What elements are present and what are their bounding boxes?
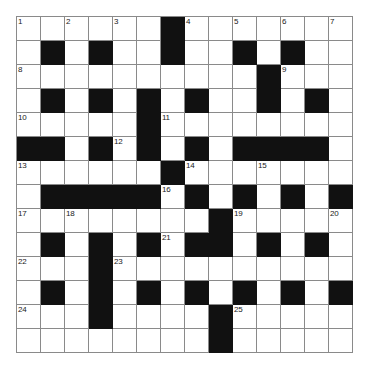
grid-letter-cell[interactable]: [209, 113, 233, 137]
grid-letter-cell[interactable]: [305, 185, 329, 209]
grid-letter-cell[interactable]: [65, 137, 89, 161]
grid-letter-cell[interactable]: [65, 281, 89, 305]
grid-letter-cell[interactable]: [185, 65, 209, 89]
grid-letter-cell[interactable]: [257, 209, 281, 233]
grid-letter-cell[interactable]: [41, 329, 65, 353]
grid-letter-cell[interactable]: [113, 113, 137, 137]
grid-letter-cell[interactable]: [305, 329, 329, 353]
grid-letter-cell[interactable]: [137, 329, 161, 353]
grid-letter-cell[interactable]: [305, 113, 329, 137]
grid-letter-cell[interactable]: [161, 209, 185, 233]
grid-letter-cell[interactable]: [137, 209, 161, 233]
grid-letter-cell[interactable]: [17, 281, 41, 305]
grid-letter-cell[interactable]: [65, 305, 89, 329]
grid-letter-cell[interactable]: 22: [17, 257, 41, 281]
grid-letter-cell[interactable]: 21: [161, 233, 185, 257]
grid-letter-cell[interactable]: [329, 41, 353, 65]
grid-letter-cell[interactable]: [113, 209, 137, 233]
grid-letter-cell[interactable]: [65, 257, 89, 281]
grid-letter-cell[interactable]: [281, 113, 305, 137]
grid-letter-cell[interactable]: [257, 113, 281, 137]
grid-letter-cell[interactable]: [65, 161, 89, 185]
grid-letter-cell[interactable]: [65, 329, 89, 353]
grid-letter-cell[interactable]: [305, 17, 329, 41]
grid-letter-cell[interactable]: [113, 305, 137, 329]
grid-letter-cell[interactable]: [233, 257, 257, 281]
grid-letter-cell[interactable]: 8: [17, 65, 41, 89]
grid-letter-cell[interactable]: 15: [257, 161, 281, 185]
crossword-grid[interactable]: 1234567891011121314151617181920212223242…: [16, 16, 353, 353]
grid-letter-cell[interactable]: 1: [17, 17, 41, 41]
grid-letter-cell[interactable]: 11: [161, 113, 185, 137]
grid-letter-cell[interactable]: [137, 257, 161, 281]
grid-letter-cell[interactable]: [113, 89, 137, 113]
grid-letter-cell[interactable]: [305, 305, 329, 329]
grid-letter-cell[interactable]: [161, 137, 185, 161]
grid-letter-cell[interactable]: [233, 329, 257, 353]
grid-letter-cell[interactable]: [281, 89, 305, 113]
grid-letter-cell[interactable]: [65, 41, 89, 65]
grid-letter-cell[interactable]: [17, 185, 41, 209]
grid-letter-cell[interactable]: [305, 65, 329, 89]
grid-letter-cell[interactable]: 14: [185, 161, 209, 185]
grid-letter-cell[interactable]: [161, 305, 185, 329]
grid-letter-cell[interactable]: [209, 17, 233, 41]
grid-letter-cell[interactable]: [41, 209, 65, 233]
grid-letter-cell[interactable]: [281, 233, 305, 257]
grid-letter-cell[interactable]: [185, 209, 209, 233]
grid-letter-cell[interactable]: [89, 161, 113, 185]
grid-letter-cell[interactable]: 2: [65, 17, 89, 41]
grid-letter-cell[interactable]: [161, 257, 185, 281]
grid-letter-cell[interactable]: [209, 137, 233, 161]
grid-letter-cell[interactable]: [257, 17, 281, 41]
grid-letter-cell[interactable]: [305, 281, 329, 305]
grid-letter-cell[interactable]: [281, 209, 305, 233]
grid-letter-cell[interactable]: [257, 41, 281, 65]
grid-letter-cell[interactable]: [41, 305, 65, 329]
grid-letter-cell[interactable]: [137, 41, 161, 65]
grid-letter-cell[interactable]: [137, 65, 161, 89]
grid-letter-cell[interactable]: 17: [17, 209, 41, 233]
grid-letter-cell[interactable]: [185, 305, 209, 329]
grid-letter-cell[interactable]: 5: [233, 17, 257, 41]
grid-letter-cell[interactable]: [305, 257, 329, 281]
grid-letter-cell[interactable]: [113, 281, 137, 305]
grid-letter-cell[interactable]: [17, 233, 41, 257]
grid-letter-cell[interactable]: 4: [185, 17, 209, 41]
grid-letter-cell[interactable]: [233, 113, 257, 137]
grid-letter-cell[interactable]: [233, 161, 257, 185]
grid-letter-cell[interactable]: [89, 209, 113, 233]
grid-letter-cell[interactable]: 12: [113, 137, 137, 161]
grid-letter-cell[interactable]: [17, 329, 41, 353]
grid-letter-cell[interactable]: [329, 137, 353, 161]
grid-letter-cell[interactable]: [233, 65, 257, 89]
grid-letter-cell[interactable]: [209, 281, 233, 305]
grid-letter-cell[interactable]: [281, 329, 305, 353]
grid-letter-cell[interactable]: [65, 65, 89, 89]
grid-letter-cell[interactable]: 6: [281, 17, 305, 41]
grid-letter-cell[interactable]: [113, 41, 137, 65]
grid-letter-cell[interactable]: [185, 41, 209, 65]
grid-letter-cell[interactable]: [329, 233, 353, 257]
grid-letter-cell[interactable]: [185, 329, 209, 353]
grid-letter-cell[interactable]: [89, 17, 113, 41]
grid-letter-cell[interactable]: [281, 257, 305, 281]
grid-letter-cell[interactable]: 18: [65, 209, 89, 233]
grid-letter-cell[interactable]: [65, 113, 89, 137]
grid-letter-cell[interactable]: 3: [113, 17, 137, 41]
grid-letter-cell[interactable]: [137, 161, 161, 185]
grid-letter-cell[interactable]: [209, 89, 233, 113]
grid-letter-cell[interactable]: [209, 185, 233, 209]
grid-letter-cell[interactable]: [41, 257, 65, 281]
grid-letter-cell[interactable]: [185, 257, 209, 281]
grid-letter-cell[interactable]: 7: [329, 17, 353, 41]
grid-letter-cell[interactable]: [329, 161, 353, 185]
grid-letter-cell[interactable]: [161, 329, 185, 353]
grid-letter-cell[interactable]: [281, 161, 305, 185]
grid-letter-cell[interactable]: [209, 257, 233, 281]
grid-letter-cell[interactable]: [17, 41, 41, 65]
grid-letter-cell[interactable]: 20: [329, 209, 353, 233]
grid-letter-cell[interactable]: 9: [281, 65, 305, 89]
grid-letter-cell[interactable]: [209, 161, 233, 185]
grid-letter-cell[interactable]: [161, 89, 185, 113]
